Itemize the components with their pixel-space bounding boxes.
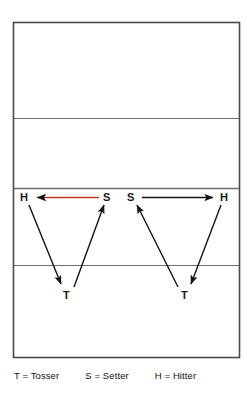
player-label-tosser-left: T bbox=[63, 290, 70, 301]
legend: T = Tosser S = Setter H = Hitter bbox=[14, 370, 239, 381]
player-label-hitter-right: H bbox=[220, 192, 228, 203]
player-label-hitter-left: H bbox=[20, 192, 28, 203]
legend-item-hitter: H = Hitter bbox=[155, 370, 196, 381]
court-surface bbox=[14, 23, 240, 358]
legend-item-setter: S = Setter bbox=[85, 370, 129, 381]
player-label-setter-right: S bbox=[127, 192, 135, 203]
court-svg bbox=[0, 0, 251, 397]
volleyball-drill-diagram: H S S H T T T = Tosser S = Setter H = Hi… bbox=[0, 0, 251, 397]
player-label-setter-left: S bbox=[103, 192, 111, 203]
player-label-tosser-right: T bbox=[181, 290, 188, 301]
legend-item-tosser: T = Tosser bbox=[14, 370, 59, 381]
